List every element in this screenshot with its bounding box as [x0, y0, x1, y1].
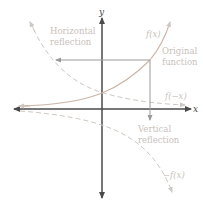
horizontal-reflection-label-line1: Horizontal: [50, 26, 96, 36]
y-axis-label: y: [98, 7, 105, 17]
original-function-curve-label: f(x): [145, 29, 161, 39]
reflection-diagram: x y Horizontal reflection f(x) Original …: [0, 0, 203, 211]
horizontal-reflection-curve-start-arrow: [30, 22, 35, 32]
vertical-reflection-label-line2: reflection: [138, 135, 180, 145]
vertical-reflection-label-line1: Vertical: [137, 124, 171, 134]
horizontal-reflection-label-line2: reflection: [50, 37, 92, 47]
horizontal-reflection-curve-label: f(−x): [164, 91, 187, 101]
x-axis-label: x: [193, 104, 198, 114]
vertical-reflection-curve-label: −f(x): [163, 170, 185, 180]
original-function-label-line1: Original: [162, 46, 197, 56]
original-function-label-line2: function: [162, 57, 198, 67]
